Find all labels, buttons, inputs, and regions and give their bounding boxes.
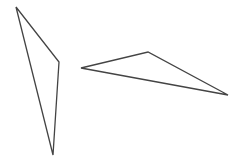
right-triangle bbox=[81, 52, 228, 95]
triangles-diagram bbox=[0, 0, 239, 163]
left-triangle bbox=[16, 7, 59, 155]
diagram-canvas bbox=[0, 0, 239, 163]
